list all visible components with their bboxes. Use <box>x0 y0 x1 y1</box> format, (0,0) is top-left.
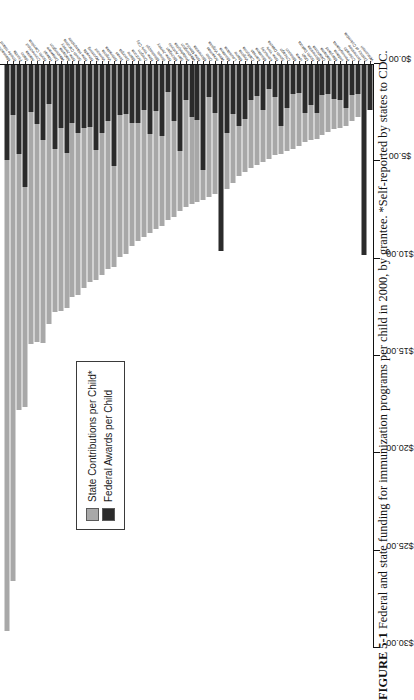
stacked-bar <box>177 64 182 211</box>
stacked-bar <box>118 64 123 257</box>
bar-segment-federal <box>332 64 337 99</box>
bar-segment-federal <box>165 64 170 92</box>
stacked-bar <box>231 64 236 183</box>
bar-segment-state <box>88 127 93 282</box>
bar-segment-federal <box>88 64 93 127</box>
bar-segment-state <box>308 105 313 140</box>
bar-segment-state <box>314 113 319 139</box>
stacked-bar <box>88 64 93 282</box>
bar-segment-federal <box>320 64 325 95</box>
bar-segment-state <box>70 123 75 296</box>
bar-segment-federal <box>219 64 224 251</box>
bar-segment-federal <box>195 64 200 120</box>
bar-segment-state <box>40 140 45 343</box>
bar-segment-federal <box>70 64 75 123</box>
bar-segment-state <box>344 108 349 126</box>
stacked-bar <box>112 64 117 267</box>
stacked-bar <box>284 64 289 151</box>
bar-segment-state <box>302 113 307 142</box>
bar-segment-state <box>338 100 343 128</box>
bar-segment-federal <box>284 64 289 108</box>
bar-segment-state <box>266 89 271 159</box>
bar-segment-federal <box>129 64 134 123</box>
legend-label-state-contributions: State Contributions per Child* <box>87 370 98 502</box>
stacked-bar <box>332 64 337 129</box>
stacked-bar <box>135 64 140 241</box>
bar-segment-federal <box>338 64 343 100</box>
bar-segment-federal <box>231 64 236 114</box>
bar-segment-federal <box>124 64 129 114</box>
stacked-bar <box>70 64 75 297</box>
bar-segment-federal <box>64 64 69 153</box>
stacked-bar <box>255 64 260 165</box>
bar-segment-federal <box>118 64 123 115</box>
bar-segment-federal <box>308 64 313 105</box>
bar-segment-federal <box>28 64 33 112</box>
stacked-bar <box>129 64 134 246</box>
bar-segment-federal <box>362 64 367 255</box>
state-contributions-swatch-icon <box>86 508 99 521</box>
bar-segment-state <box>260 110 265 163</box>
bar-segment-federal <box>326 64 331 94</box>
bar-segment-federal <box>112 64 117 166</box>
stacked-bar <box>82 64 87 288</box>
bar-segment-federal <box>356 64 361 94</box>
bar-segment-federal <box>249 64 254 100</box>
stacked-bar <box>368 64 373 110</box>
bar-segment-federal <box>177 64 182 151</box>
bar-segment-state <box>225 133 230 188</box>
bar-segment-state <box>34 124 39 342</box>
bar-segment-state <box>320 95 325 135</box>
stacked-bar <box>22 64 27 407</box>
bar-segment-federal <box>189 64 194 117</box>
bar-segment-state <box>106 121 111 269</box>
stacked-bar <box>237 64 242 176</box>
bar-segment-federal <box>201 64 206 170</box>
stacked-bar <box>320 64 325 135</box>
bar-segment-state <box>159 136 164 226</box>
bar-segment-federal <box>46 64 51 104</box>
bar-segment-state <box>243 119 248 172</box>
bar-segment-federal <box>34 64 39 124</box>
stacked-bar <box>201 64 206 200</box>
bar-segment-state <box>231 114 236 183</box>
bar-segment-state <box>171 121 176 216</box>
bar-segment-federal <box>314 64 319 113</box>
stacked-bar <box>124 64 129 254</box>
bar-segment-federal <box>10 64 15 115</box>
bar-segment-state <box>46 104 51 324</box>
stacked-bar <box>46 64 51 324</box>
stacked-bar <box>165 64 170 220</box>
stacked-bar <box>153 64 158 229</box>
bar-segment-federal <box>207 64 212 97</box>
bar-segment-federal <box>290 64 295 94</box>
bar-segment-federal <box>76 64 81 133</box>
bar-segment-state <box>28 112 33 345</box>
bar-segment-federal <box>4 64 9 160</box>
bar-segment-state <box>183 100 188 207</box>
bar-segment-state <box>147 134 152 233</box>
figure-number: FIGURE 5-1 <box>376 632 390 700</box>
bar-segment-state <box>350 95 355 121</box>
federal-awards-swatch-icon <box>102 508 115 521</box>
bar-segment-state <box>177 151 182 211</box>
bar-segment-federal <box>213 64 218 113</box>
stacked-bar <box>40 64 45 343</box>
bar-segment-state <box>213 113 218 195</box>
stacked-bar <box>302 64 307 142</box>
bar-segment-state <box>284 108 289 151</box>
stacked-bar <box>147 64 152 233</box>
stacked-bar <box>296 64 301 146</box>
stacked-bar <box>16 64 21 411</box>
bar-segment-state <box>112 166 117 267</box>
bar-segment-state <box>4 160 9 631</box>
stacked-bar <box>225 64 230 189</box>
stacked-bar <box>106 64 111 269</box>
stacked-bar <box>171 64 176 217</box>
bar-segment-state <box>237 126 242 176</box>
legend-item-state-contributions: State Contributions per Child* <box>86 370 99 521</box>
bar-segment-federal <box>147 64 152 134</box>
plot-area: MassachusettsRhode IslandFloridaIdahoAla… <box>4 64 374 648</box>
